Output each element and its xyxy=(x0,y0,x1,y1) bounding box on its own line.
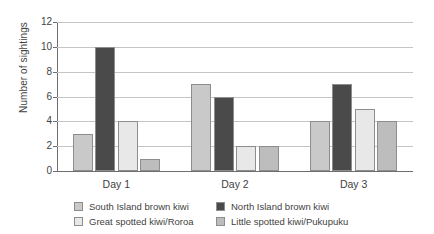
bar xyxy=(259,146,279,171)
y-axis-tick-label: 12 xyxy=(26,17,52,27)
x-axis-tick-label: Day 2 xyxy=(195,178,275,190)
legend-label: North Island brown kiwi xyxy=(231,202,329,212)
y-axis-tick-labels: 024681012 xyxy=(22,22,52,171)
y-axis-tick-label: 8 xyxy=(26,67,52,77)
x-axis-baseline xyxy=(57,171,413,172)
y-axis-tick-label: 2 xyxy=(26,141,52,151)
y-axis-tick-mark xyxy=(53,22,57,23)
legend-swatch-icon xyxy=(74,217,83,226)
gridline xyxy=(57,22,413,23)
legend-swatch-icon xyxy=(74,202,83,211)
legend-label: Great spotted kiwi/Roroa xyxy=(89,217,194,227)
legend-label: South Island brown kiwi xyxy=(89,202,189,212)
bar xyxy=(377,121,397,171)
y-axis-tick-mark xyxy=(53,121,57,122)
bar-chart: Number of sightings 024681012 Day 1Day 2… xyxy=(0,0,434,234)
bar xyxy=(73,134,93,171)
y-axis-tick-label: 0 xyxy=(26,166,52,176)
legend-swatch-icon xyxy=(216,202,225,211)
y-axis-tick-mark xyxy=(53,97,57,98)
bar xyxy=(214,97,234,172)
bar xyxy=(191,84,211,171)
x-axis-tick-label: Day 3 xyxy=(314,178,394,190)
y-axis-tick-label: 10 xyxy=(26,42,52,52)
legend-item: North Island brown kiwi xyxy=(216,199,376,214)
y-axis-tick-mark xyxy=(53,171,57,172)
bar xyxy=(332,84,352,171)
legend-item: South Island brown kiwi xyxy=(74,199,216,214)
legend-item: Little spotted kiwi/Pukupuku xyxy=(216,214,376,229)
bar xyxy=(140,159,160,171)
bar xyxy=(310,121,330,171)
y-axis-tick-mark xyxy=(53,47,57,48)
chart-legend: South Island brown kiwiNorth Island brow… xyxy=(74,199,374,229)
x-axis-tick-label: Day 1 xyxy=(76,178,156,190)
bar xyxy=(118,121,138,171)
legend-swatch-icon xyxy=(216,217,225,226)
y-axis-tick-mark xyxy=(53,72,57,73)
legend-label: Little spotted kiwi/Pukupuku xyxy=(231,217,348,227)
y-axis-tick-label: 4 xyxy=(26,116,52,126)
plot-area xyxy=(57,22,413,171)
bar xyxy=(236,146,256,171)
bar xyxy=(95,47,115,171)
bar xyxy=(355,109,375,171)
y-axis-tick-mark xyxy=(53,146,57,147)
legend-item: Great spotted kiwi/Roroa xyxy=(74,214,216,229)
y-axis-tick-label: 6 xyxy=(26,92,52,102)
